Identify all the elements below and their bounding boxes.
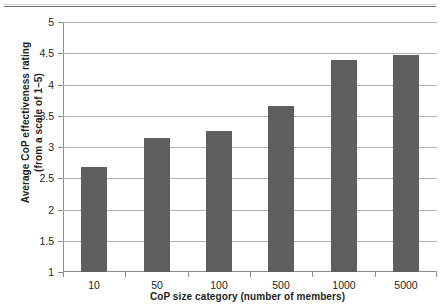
bar-chart-figure: Average CoP effectiveness rating (from a… [0,0,440,306]
y-axis-tick [58,210,63,211]
y-axis-tick [58,178,63,179]
x-axis-tick-label: 100 [210,279,228,291]
y-axis-title: Average CoP effectiveness rating (from a… [20,8,45,238]
x-axis-tick-label: 1000 [332,279,355,291]
gridline [63,85,437,86]
x-axis-tick [375,272,376,277]
y-axis-tick [58,116,63,117]
gridline [63,22,437,23]
x-axis-tick [250,272,251,277]
y-axis-tick-label: 2.5 [39,172,54,184]
gridline [63,210,437,211]
bar [144,138,170,272]
gridline [63,53,437,54]
x-axis-tick [436,272,437,277]
x-axis-tick [312,272,313,277]
bar [268,106,294,272]
y-axis-tick [58,22,63,23]
x-axis-tick-label: 500 [272,279,290,291]
gridline [63,178,437,179]
y-axis-tick-label: 3.5 [39,110,54,122]
page-rule-faint [4,4,436,5]
y-axis-tick-label: 5 [48,16,54,28]
x-axis-tick [188,272,189,277]
y-axis-tick [58,85,63,86]
bar [393,55,419,273]
gridline [63,147,437,148]
page-rule [4,6,436,7]
bar [206,131,232,272]
x-axis-tick [63,272,64,277]
x-axis-tick-label: 10 [88,279,100,291]
y-axis-tick [58,147,63,148]
y-axis-tick [58,241,63,242]
plot-area: 11.522.533.544.55105010050010005000 [63,22,437,272]
bar [331,60,357,272]
y-axis-title-line-1: Average CoP effectiveness rating [20,42,31,204]
y-axis-tick-label: 3 [48,141,54,153]
y-axis-tick-label: 2 [48,204,54,216]
y-axis-tick-label: 4 [48,79,54,91]
gridline [63,116,437,117]
x-axis-tick-label: 5000 [394,279,417,291]
gridline [63,241,437,242]
y-axis-title-line-2: (from a scale of 1–5) [32,8,45,238]
y-axis-tick [58,53,63,54]
y-axis-tick-label: 1 [48,266,54,278]
y-axis-tick-label: 1.5 [39,235,54,247]
bar [81,167,107,272]
plot-canvas: 11.522.533.544.55105010050010005000 [63,22,437,272]
x-axis-tick [125,272,126,277]
x-axis-title: CoP size category (number of members) [55,291,440,302]
y-axis-tick-label: 4.5 [39,47,54,59]
x-axis-tick-label: 50 [151,279,163,291]
